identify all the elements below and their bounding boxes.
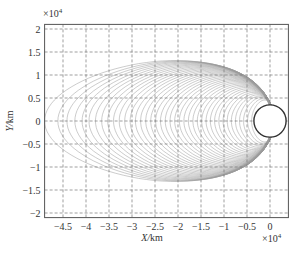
trajectory-chart: −4.5−4−3.5−3−2.5−2−1.5−1−0.50 21.510.50−… bbox=[0, 0, 296, 255]
x-tick-label: −3 bbox=[127, 221, 138, 232]
x-axis-ticks: −4.5−4−3.5−3−2.5−2−1.5−1−0.50 bbox=[54, 221, 273, 232]
y-exponent-label: ×104 bbox=[43, 7, 63, 19]
x-tick-label: −1 bbox=[219, 221, 230, 232]
figure-caption-faded bbox=[0, 244, 296, 255]
x-exponent-label: ×104 bbox=[262, 232, 282, 244]
y-tick-label: 2 bbox=[36, 24, 41, 35]
central-body bbox=[254, 105, 286, 137]
y-tick-label: 0.5 bbox=[28, 93, 41, 104]
y-tick-label: −1 bbox=[30, 162, 41, 173]
y-tick-label: −0.5 bbox=[22, 139, 40, 150]
x-tick-label: −4.5 bbox=[54, 221, 72, 232]
y-tick-label: −1.5 bbox=[22, 185, 40, 196]
x-tick-label: −1.5 bbox=[192, 221, 210, 232]
y-tick-label: 1.5 bbox=[28, 47, 41, 58]
y-axis-label: Y/km bbox=[4, 110, 15, 131]
x-tick-label: −0.5 bbox=[238, 221, 256, 232]
y-tick-label: −2 bbox=[30, 208, 41, 219]
x-tick-label: −3.5 bbox=[100, 221, 118, 232]
y-axis-ticks: 21.510.50−0.5−1−1.5−2 bbox=[22, 24, 40, 219]
x-tick-label: −2.5 bbox=[146, 221, 164, 232]
y-tick-label: 0 bbox=[36, 116, 41, 127]
x-axis-label: X/km bbox=[140, 232, 163, 243]
y-tick-label: 1 bbox=[36, 70, 41, 81]
central-body-circle bbox=[254, 105, 286, 137]
grid-lines bbox=[45, 24, 289, 217]
x-tick-label: −4 bbox=[81, 221, 92, 232]
x-tick-label: −2 bbox=[173, 221, 184, 232]
x-tick-label: 0 bbox=[268, 221, 273, 232]
